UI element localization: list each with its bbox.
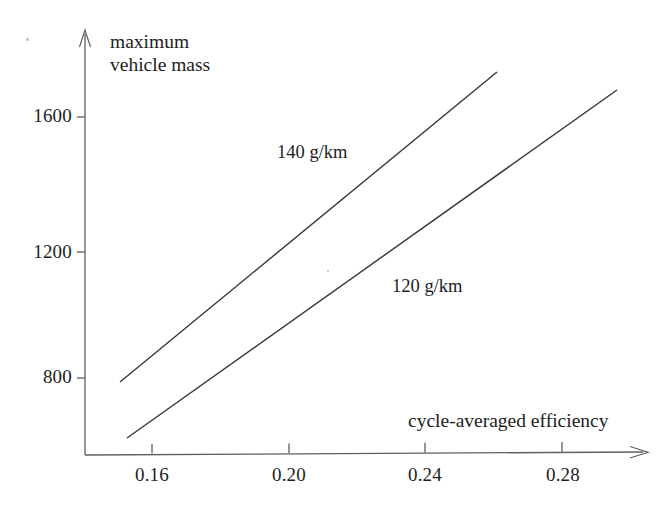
series-annotation-140-g-km: 140 g/km	[277, 142, 347, 164]
y-tick-label-800: 800	[8, 366, 72, 388]
chart-plot-area	[0, 0, 664, 514]
y-axis-title-line2: vehicle mass	[110, 54, 210, 75]
data-series-group	[120, 72, 617, 438]
scan-speck-2	[327, 270, 329, 272]
series-line-140-g-km	[120, 72, 497, 382]
x-tick-label-016: 0.16	[119, 464, 185, 486]
y-axis-title: maximumvehicle mass	[110, 30, 210, 76]
x-tick-label-020: 0.20	[256, 464, 322, 486]
x-tick-label-024: 0.24	[392, 464, 458, 486]
series-line-120-g-km	[127, 90, 617, 438]
y-tick-label-1200: 1200	[8, 241, 72, 263]
scan-speck	[26, 38, 29, 41]
x-axis-line	[85, 452, 643, 455]
y-axis-title-line1: maximum	[110, 31, 189, 52]
x-axis	[85, 442, 648, 458]
x-axis-title: cycle-averaged efficiency	[408, 409, 608, 432]
chart-figure: maximumvehicle mass cycle-averaged effic…	[0, 0, 664, 514]
y-axis	[77, 30, 91, 455]
series-annotation-120-g-km: 120 g/km	[392, 276, 462, 298]
y-tick-label-1600: 1600	[8, 105, 72, 127]
x-tick-label-028: 0.28	[530, 464, 596, 486]
